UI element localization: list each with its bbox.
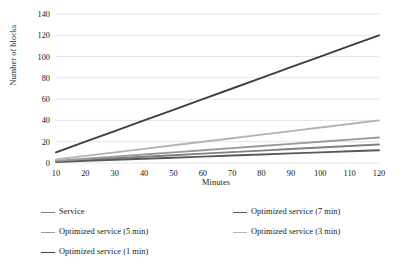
x-tick-label: 10 xyxy=(52,169,60,178)
legend-label: Optimized service (1 min) xyxy=(59,247,148,257)
legend-item[interactable]: Optimized service (7 min) xyxy=(233,207,340,217)
plot-area: 0204060801001201401020304050607080901001… xyxy=(0,0,407,200)
x-tick-label: 80 xyxy=(257,169,265,178)
x-tick-label: 50 xyxy=(169,169,177,178)
legend-swatch-line-icon xyxy=(41,232,55,233)
legend-swatch-line-icon xyxy=(233,232,247,233)
legend-label: Optimized service (3 min) xyxy=(251,227,340,237)
x-tick-label: 100 xyxy=(314,169,327,178)
legend-swatch-line-icon xyxy=(41,252,55,253)
y-tick-label: 80 xyxy=(42,74,50,83)
y-tick-label: 0 xyxy=(46,159,50,168)
legend-swatch-line-icon xyxy=(233,212,247,213)
legend-swatch-line-icon xyxy=(41,212,55,213)
y-tick-label: 60 xyxy=(42,95,50,104)
legend-item[interactable]: Optimized service (1 min) xyxy=(41,247,148,257)
x-tick-label: 70 xyxy=(228,169,236,178)
y-tick-label: 100 xyxy=(37,53,50,62)
x-tick-label: 90 xyxy=(287,169,295,178)
legend-label: Optimized service (5 min) xyxy=(59,227,148,237)
legend-item[interactable]: Service xyxy=(41,207,84,217)
y-tick-label: 20 xyxy=(42,138,50,147)
x-tick-label: 60 xyxy=(199,169,207,178)
y-tick-label: 140 xyxy=(37,10,50,19)
x-tick-label: 110 xyxy=(344,169,356,178)
line-chart: 0204060801001201401020304050607080901001… xyxy=(0,0,407,275)
legend-item[interactable]: Optimized service (5 min) xyxy=(41,227,148,237)
legend-label: Optimized service (7 min) xyxy=(251,207,340,217)
series-line xyxy=(56,137,379,160)
x-axis-title: Minutes xyxy=(56,178,376,187)
legend-label: Service xyxy=(59,207,84,217)
x-tick-label: 40 xyxy=(140,169,148,178)
y-tick-label: 120 xyxy=(37,31,50,40)
x-tick-label: 120 xyxy=(373,169,386,178)
y-tick-label: 40 xyxy=(42,116,50,125)
chart-legend: ServiceOptimized service (7 min)Optimize… xyxy=(0,200,407,275)
x-tick-label: 20 xyxy=(81,169,89,178)
x-tick-label: 30 xyxy=(111,169,119,178)
legend-item[interactable]: Optimized service (3 min) xyxy=(233,227,340,237)
y-axis-title: Number of blocks xyxy=(9,0,19,115)
plot-svg: 0204060801001201401020304050607080901001… xyxy=(0,0,407,200)
series-line xyxy=(56,35,379,152)
